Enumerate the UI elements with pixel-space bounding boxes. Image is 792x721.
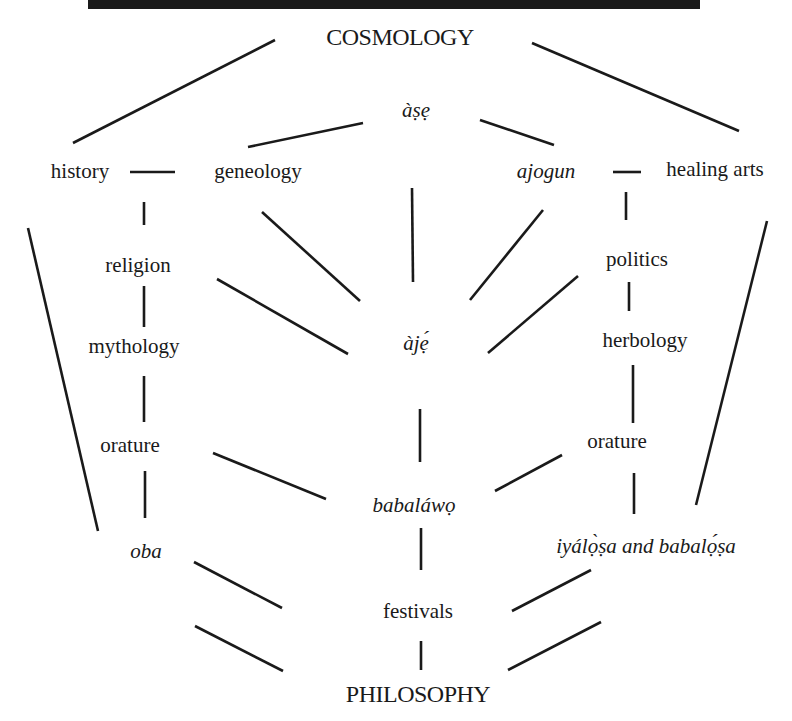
node-festivals: festivals (383, 601, 453, 622)
edge-orature-right-babalawo (495, 455, 562, 491)
node-ajogun: ajogun (517, 161, 575, 182)
edge-religion-aje (217, 279, 348, 354)
edge-orature-left-babalawo (213, 453, 326, 499)
node-geneology: geneology (214, 161, 301, 182)
node-politics: politics (606, 249, 668, 270)
node-religion: religion (105, 255, 170, 276)
edge-ase-ajogun (480, 120, 554, 145)
edge-iyalosa-festivals (512, 570, 591, 611)
edge-oba-philosophy (195, 626, 283, 671)
node-philosophy: PHILOSOPHY (346, 682, 490, 706)
edge-ajogun-aje (470, 210, 543, 300)
edge-ase-geneology (248, 123, 363, 147)
top-rule (88, 0, 700, 9)
node-orature-left: orature (100, 435, 159, 456)
edge-ase-aje (412, 188, 413, 282)
node-babalawo: babaláwọ (373, 495, 456, 516)
node-oba: oba (130, 541, 162, 562)
node-history: history (51, 161, 109, 182)
node-cosmology: COSMOLOGY (326, 25, 474, 49)
node-orature-right: orature (587, 431, 646, 452)
edge-healing-arts-iyalosa (696, 221, 767, 505)
edge-history-oba (28, 228, 98, 531)
node-mythology: mythology (88, 336, 179, 357)
node-healing-arts: healing arts (666, 159, 763, 180)
node-iyalosa: iyálọ̀ṣa and babalọ́ṣa (556, 536, 736, 557)
node-herbology: herbology (602, 330, 687, 351)
edge-cosmology-healing-arts (532, 43, 739, 131)
node-ase: àṣẹ (402, 100, 430, 121)
edge-cosmology-history (73, 40, 275, 143)
edge-iyalosa-philosophy (508, 622, 601, 670)
node-aje: àjẹ́ (403, 333, 429, 354)
edge-politics-aje (488, 276, 578, 353)
concept-diagram: COSMOLOGYàṣẹhistorygeneologyajogunhealin… (0, 0, 792, 721)
edge-oba-festivals (194, 562, 282, 608)
edge-geneology-aje (262, 212, 360, 301)
